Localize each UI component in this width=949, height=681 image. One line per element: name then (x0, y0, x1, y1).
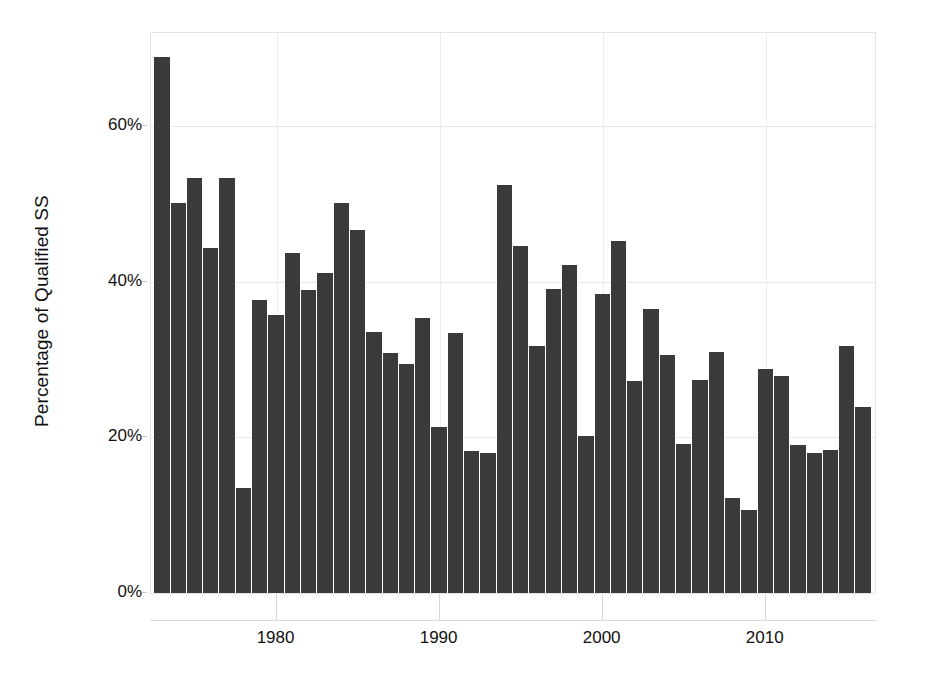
y-axis-tick-label: 60% (72, 115, 142, 135)
bar (660, 355, 676, 593)
bar (692, 380, 708, 593)
bar (676, 444, 692, 593)
x-axis-ticks: 1980199020002010 (150, 594, 876, 664)
x-axis-tick-mark (765, 594, 766, 620)
bar (643, 309, 659, 593)
x-axis-tick-mark (602, 594, 603, 620)
y-axis-label-container: Percentage of Qualified SS (0, 0, 60, 681)
x-axis-tick-label: 1980 (231, 628, 321, 648)
bar (513, 246, 529, 593)
bar (611, 241, 627, 593)
bar (171, 203, 187, 593)
plot-area (150, 32, 876, 594)
y-axis-tick-mark (142, 436, 147, 437)
bar (285, 253, 301, 593)
y-axis-tick-mark (142, 592, 147, 593)
bar (790, 445, 806, 593)
bar (334, 203, 350, 593)
bar (839, 346, 855, 593)
y-axis-tick-label: 20% (72, 426, 142, 446)
bar (774, 376, 790, 593)
y-axis-tick-label: 40% (72, 271, 142, 291)
bar (154, 57, 170, 593)
bar (448, 333, 464, 593)
x-axis-tick-mark (276, 594, 277, 620)
bar (301, 290, 317, 593)
bar (529, 346, 545, 593)
chart-figure: Percentage of Qualified SS 0%20%40%60% 1… (0, 0, 949, 681)
bar (236, 488, 252, 593)
bar (595, 294, 611, 593)
bar (350, 230, 366, 593)
bar (627, 381, 643, 593)
bar (546, 289, 562, 593)
bar (807, 453, 823, 593)
bar (219, 178, 235, 593)
y-axis-label: Percentage of Qualified SS (31, 101, 53, 521)
x-axis-tick-mark (439, 594, 440, 620)
bar (464, 451, 480, 593)
x-axis-tick-label: 1990 (394, 628, 484, 648)
bar (383, 353, 399, 593)
y-axis-tick-mark (142, 281, 147, 282)
bar (399, 364, 415, 593)
bar (497, 185, 513, 593)
bar (758, 369, 774, 593)
bar (268, 315, 284, 593)
bar (203, 248, 219, 593)
bar-series (151, 33, 875, 593)
bar (431, 427, 447, 593)
y-axis-tick-mark (142, 125, 147, 126)
bar (709, 352, 725, 593)
bar (317, 273, 333, 593)
y-axis-ticks: 0%20%40%60% (62, 32, 142, 594)
bar (725, 498, 741, 593)
bar (480, 453, 496, 593)
bar (855, 407, 871, 593)
bar (415, 318, 431, 593)
bar (187, 178, 203, 593)
bar (741, 510, 757, 593)
bar (578, 436, 594, 593)
bar (562, 265, 578, 593)
x-axis-tick-label: 2010 (720, 628, 810, 648)
x-axis-tick-label: 2000 (557, 628, 647, 648)
bar (252, 300, 268, 593)
bar (366, 332, 382, 593)
bar (823, 450, 839, 593)
y-axis-tick-label: 0% (72, 582, 142, 602)
